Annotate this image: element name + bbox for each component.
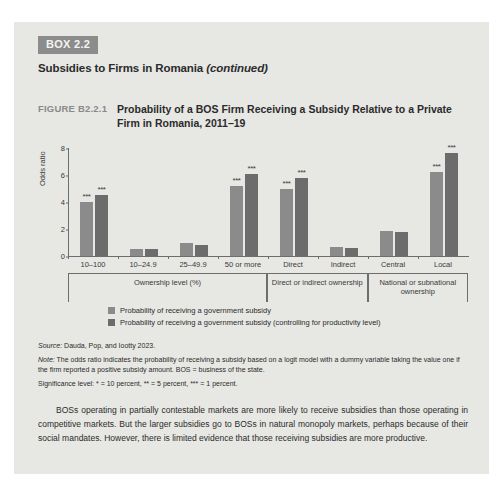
x-axis-category-label: Central bbox=[368, 260, 418, 274]
bar-series1: *** bbox=[230, 186, 243, 256]
bar-series2 bbox=[395, 232, 408, 256]
source-label: Source: bbox=[38, 342, 62, 349]
box-title-continued: (continued) bbox=[206, 62, 268, 74]
bar-group: ****** bbox=[419, 148, 469, 256]
legend-label-series1: Probability of receiving a government su… bbox=[120, 306, 271, 315]
x-axis-category-labels: 10–10010–24.925–49.950 or moreDirectIndi… bbox=[68, 260, 468, 274]
figure-label: FIGURE B2.2.1 bbox=[38, 103, 107, 114]
y-axis-tick: 0 bbox=[43, 252, 69, 261]
x-axis-category-label: Direct bbox=[268, 260, 318, 274]
bar-group: ****** bbox=[219, 148, 269, 256]
bar-series2 bbox=[345, 248, 358, 256]
chart-legend: Probability of receiving a government su… bbox=[108, 306, 381, 330]
y-axis-label: Odds ratio bbox=[38, 151, 47, 186]
significance-marker: *** bbox=[298, 169, 306, 177]
y-axis-tick: 8 bbox=[43, 144, 69, 153]
note-line: Note: The odds ratio indicates the proba… bbox=[38, 355, 468, 375]
x-axis-category-label: 50 or more bbox=[218, 260, 268, 274]
note-text: The odds ratio indicates the probability… bbox=[38, 356, 460, 373]
x-axis-group-labels: Ownership level (%)Direct or indirect ow… bbox=[68, 274, 468, 304]
body-paragraph: BOSs operating in partially contestable … bbox=[38, 404, 468, 445]
legend-swatch-series2 bbox=[108, 319, 115, 326]
bar-series2 bbox=[195, 245, 208, 256]
source-line: Source: Dauda, Pop, and Iootty 2023. bbox=[38, 341, 468, 351]
bar-series2: *** bbox=[95, 195, 108, 256]
significance-marker: *** bbox=[448, 144, 456, 152]
significance-marker: *** bbox=[233, 177, 241, 185]
significance-line: Significance level: * = 10 percent, ** =… bbox=[38, 379, 468, 389]
bar-series1 bbox=[180, 243, 193, 257]
bar-series1 bbox=[380, 231, 393, 256]
legend-label-series2: Probability of receiving a government su… bbox=[120, 318, 381, 327]
bar-group: ****** bbox=[269, 148, 319, 256]
source-text: Dauda, Pop, and Iootty 2023. bbox=[62, 342, 155, 349]
x-axis-category-label: 25–49.9 bbox=[168, 260, 218, 274]
bar-series1: *** bbox=[80, 202, 93, 256]
legend-item-series2: Probability of receiving a government su… bbox=[108, 318, 381, 327]
x-axis-group-label: National or subnational ownership bbox=[368, 274, 469, 302]
bar-series1: *** bbox=[430, 172, 443, 256]
figure-title: Probability of a BOS Firm Receiving a Su… bbox=[117, 102, 462, 130]
significance-marker: *** bbox=[433, 163, 441, 171]
bar-series2: *** bbox=[445, 153, 458, 256]
x-axis-category-label: Local bbox=[418, 260, 468, 274]
x-axis-group-label: Direct or indirect ownership bbox=[267, 274, 368, 302]
box-title: Subsidies to Firms in Romania (continued… bbox=[38, 62, 458, 74]
significance-marker: *** bbox=[248, 165, 256, 173]
bar-series1 bbox=[330, 247, 343, 256]
significance-marker: *** bbox=[83, 193, 91, 201]
x-axis-category-label: 10–24.9 bbox=[118, 260, 168, 274]
plot-area: 02468 ************************ bbox=[68, 148, 469, 257]
bar-series1 bbox=[130, 249, 143, 256]
x-axis-group-label: Ownership level (%) bbox=[68, 274, 267, 302]
legend-swatch-series1 bbox=[108, 307, 115, 314]
bar-series-container: ************************ bbox=[69, 148, 469, 256]
bar-series1: *** bbox=[280, 189, 293, 257]
bar-group bbox=[119, 148, 169, 256]
bar-series2: *** bbox=[295, 178, 308, 256]
bar-group bbox=[319, 148, 369, 256]
bar-group bbox=[169, 148, 219, 256]
page-root: BOX 2.2 Subsidies to Firms in Romania (c… bbox=[0, 0, 503, 495]
x-axis-category-label: Indirect bbox=[318, 260, 368, 274]
figure-notes: Source: Dauda, Pop, and Iootty 2023. Not… bbox=[38, 341, 468, 394]
y-axis-tick: 4 bbox=[43, 198, 69, 207]
box-title-main: Subsidies to Firms in Romania bbox=[38, 62, 203, 74]
legend-item-series1: Probability of receiving a government su… bbox=[108, 306, 381, 315]
note-label: Note: bbox=[38, 356, 55, 363]
box-number-tag: BOX 2.2 bbox=[38, 36, 98, 54]
significance-marker: *** bbox=[283, 180, 291, 188]
bar-group bbox=[369, 148, 419, 256]
y-axis-tick: 2 bbox=[43, 225, 69, 234]
bar-series2: *** bbox=[245, 174, 258, 256]
significance-marker: *** bbox=[98, 186, 106, 194]
bar-series2 bbox=[145, 249, 158, 256]
y-axis-tick: 6 bbox=[43, 171, 69, 180]
chart: Odds ratio 02468 ***********************… bbox=[38, 142, 478, 322]
x-axis-category-label: 10–100 bbox=[68, 260, 118, 274]
bar-group: ****** bbox=[69, 148, 119, 256]
